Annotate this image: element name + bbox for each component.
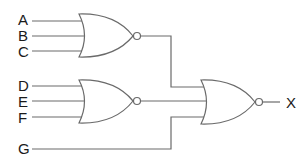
gate1-output-wire [141,36,206,87]
inverter-bubble-2 [134,98,141,105]
input-g-wire [32,117,205,149]
input-label-e: E [18,93,28,110]
input-label-a: A [18,11,28,28]
nor-gate-1 [79,14,141,57]
inverter-bubble-1 [134,33,141,40]
nor-gate-3 [201,80,263,124]
nor-gate-2 [79,80,141,123]
input-label-g: G [18,140,30,157]
gate1-input-wires [32,21,85,51]
logic-circuit: A B C D E F G X [0,0,308,168]
gate2-input-wires [32,86,85,117]
input-label-f: F [18,109,27,126]
input-label-d: D [18,77,29,94]
input-label-c: C [18,43,29,60]
input-label-b: B [18,27,28,44]
output-label-x: X [286,94,296,111]
inverter-bubble-3 [256,99,263,106]
